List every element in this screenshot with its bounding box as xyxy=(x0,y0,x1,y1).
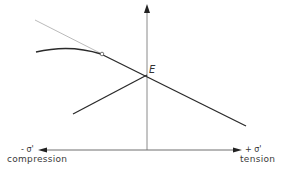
x-positive-symbol: + σ' xyxy=(245,145,262,154)
failure-line xyxy=(103,55,246,126)
compression-curve xyxy=(36,48,101,54)
x-negative-symbol: - σ' xyxy=(21,145,34,154)
x-negative-caption: compression xyxy=(7,155,67,164)
lower-line xyxy=(73,75,147,114)
x-positive-caption: tension xyxy=(240,155,275,164)
vertical-axis-arrow-icon xyxy=(144,4,150,13)
horizontal-axis-left-arrow-icon xyxy=(38,148,47,153)
point-e-label: E xyxy=(149,65,155,75)
stress-diagram xyxy=(0,0,282,173)
horizontal-axis-right-arrow-icon xyxy=(233,148,242,153)
transition-point-marker xyxy=(100,52,104,56)
